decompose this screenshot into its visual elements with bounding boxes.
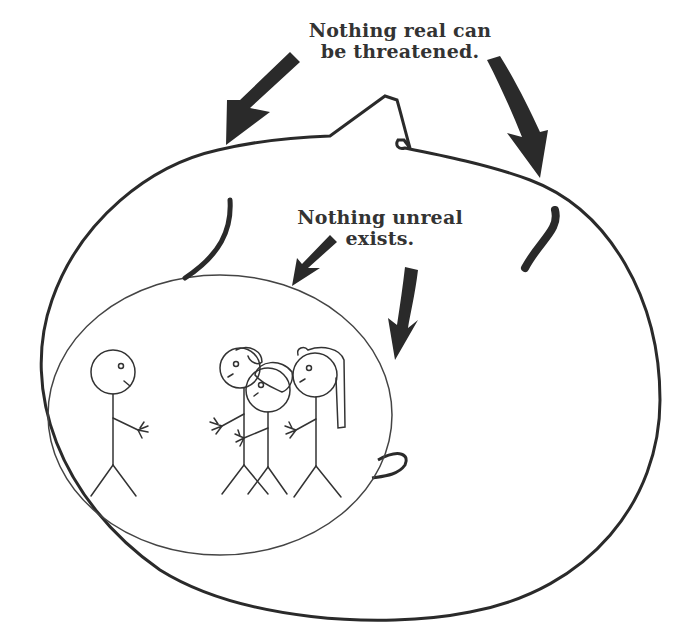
caption-nothing-unreal: Nothing unreal exists. (282, 207, 478, 249)
stick-figure-lone (91, 350, 148, 496)
outer-self-shape (41, 96, 660, 620)
caption-unreal-line-1: Nothing unreal (282, 207, 478, 228)
caption-nothing-real: Nothing real can be threatened. (290, 20, 510, 62)
inner-loop-mark (372, 454, 406, 478)
caption-real-line-1: Nothing real can (290, 20, 510, 41)
caption-unreal-line-2: exists. (282, 228, 478, 249)
caption-real-line-2: be threatened. (290, 41, 510, 62)
illustration (0, 0, 679, 641)
arrow-right-outer-icon (487, 56, 548, 178)
stick-figure-group-3 (285, 348, 345, 497)
arrow-left-outer-icon (226, 52, 300, 145)
arrow-right-inner-icon (388, 267, 418, 360)
left-brush-stroke (185, 200, 230, 278)
right-brush-stroke (525, 210, 556, 268)
